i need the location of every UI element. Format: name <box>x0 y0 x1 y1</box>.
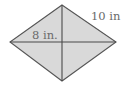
rhombus-diagram: 8 in. 10 in <box>0 0 124 87</box>
side-length-label: 10 in <box>91 9 121 23</box>
half-diagonal-label: 8 in. <box>32 28 58 42</box>
